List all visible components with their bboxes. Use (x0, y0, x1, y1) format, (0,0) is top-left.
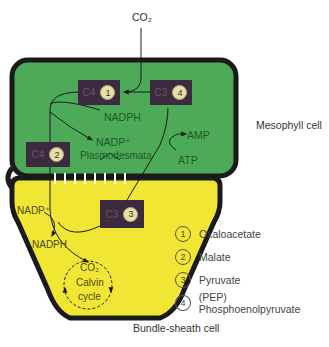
legend-text: Malate (199, 251, 231, 263)
legend-item: 3 Pyruvate (175, 268, 329, 291)
co2-input-label: CO₂ (132, 12, 152, 23)
atp-label: ATP (178, 155, 198, 166)
legend-text: Oxaloacetate (199, 228, 261, 240)
legend-item: 4 (PEP) Phosphoenolpyruvate (175, 291, 329, 314)
nadp-label-mesophyll: NADP⁺ (96, 137, 131, 148)
bundle-sheath-cell-label: Bundle-sheath cell (133, 323, 219, 334)
legend-text: Pyruvate (199, 274, 240, 286)
number-badge: 2 (49, 147, 64, 162)
box-c4-oxaloacetate: C4 1 (78, 80, 120, 105)
box-c3-pep: C3 4 (150, 80, 192, 105)
number-badge: 4 (172, 85, 187, 100)
number-badge: 3 (123, 207, 138, 222)
legend-number: 2 (175, 249, 191, 265)
carbon-label: C3 (155, 87, 168, 98)
calvin-label-1: Calvin (76, 278, 104, 288)
amp-label: AMP (187, 130, 210, 141)
carbon-label: C3 (106, 209, 119, 220)
calvin-label-2: cycle (78, 292, 101, 302)
legend-item: 2 Malate (175, 245, 329, 268)
number-badge: 1 (100, 85, 115, 100)
legend-number: 3 (175, 272, 191, 288)
legend-number: 1 (175, 226, 191, 242)
carbon-label: C4 (32, 149, 45, 160)
co2-label-bundle: CO₂ (80, 263, 99, 273)
legend-number: 4 (175, 295, 191, 311)
box-c4-malate: C4 2 (26, 142, 70, 167)
legend-item: 1 Oxaloacetate (175, 222, 329, 245)
plasmodesmata-label: Plasmodesmata (80, 151, 152, 161)
nadph-label-bundle: NADPH (32, 240, 67, 250)
legend: 1 Oxaloacetate 2 Malate 3 Pyruvate 4 (PE… (175, 222, 329, 314)
box-c3-pyruvate: C3 3 (100, 200, 144, 228)
mesophyll-cell-label: Mesophyll cell (256, 120, 322, 131)
nadp-label-bundle: NADP⁺ (17, 206, 50, 216)
nadph-label-mesophyll: NADPH (104, 112, 141, 123)
legend-text: (PEP) Phosphoenolpyruvate (199, 291, 329, 315)
carbon-label: C4 (83, 87, 96, 98)
